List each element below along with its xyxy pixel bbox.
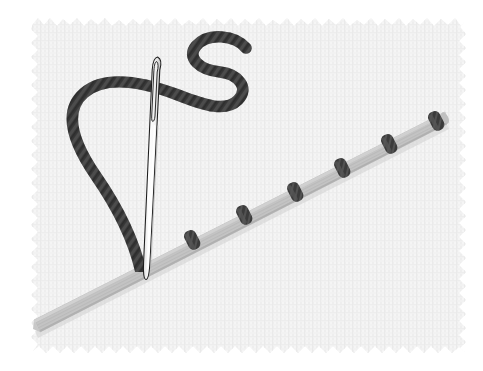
needle-and-thread-illustration bbox=[0, 0, 483, 371]
scene-canvas bbox=[0, 0, 483, 371]
